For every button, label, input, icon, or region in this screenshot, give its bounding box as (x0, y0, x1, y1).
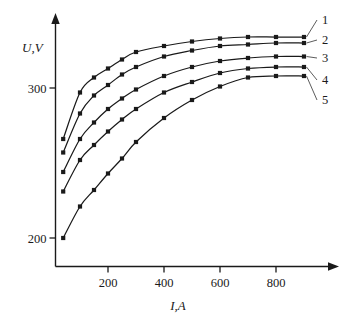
data-point-marker (190, 39, 194, 43)
data-point-marker (61, 189, 65, 193)
x-tick-label: 200 (99, 276, 118, 290)
data-point-marker (120, 57, 124, 61)
data-point-marker (61, 137, 65, 141)
data-point-marker (246, 35, 250, 39)
data-point-marker (246, 66, 250, 70)
data-point-marker (274, 65, 278, 69)
curve-label-5: 5 (322, 93, 328, 107)
leader-line-2 (307, 40, 318, 43)
data-point-marker (106, 66, 110, 70)
data-point-marker (302, 41, 306, 45)
data-point-marker (61, 236, 65, 240)
curve-label-3: 3 (322, 51, 328, 65)
data-point-marker (218, 44, 222, 48)
data-point-marker (246, 75, 250, 79)
curve-2 (63, 43, 304, 153)
data-point-marker (302, 54, 306, 58)
data-point-marker (246, 56, 250, 60)
data-point-marker (120, 156, 124, 160)
axes-layer (50, 13, 340, 273)
data-point-marker (218, 84, 222, 88)
data-point-marker (302, 65, 306, 69)
data-point-marker (190, 65, 194, 69)
data-point-marker (134, 107, 138, 111)
curve-5 (63, 76, 304, 238)
y-tick-label: 200 (28, 232, 47, 246)
curves-layer (63, 37, 304, 238)
data-point-marker (190, 48, 194, 52)
curve-label-4: 4 (322, 73, 329, 87)
data-point-marker (162, 90, 166, 94)
markers-layer (61, 35, 306, 240)
data-point-marker (218, 71, 222, 75)
data-point-marker (162, 44, 166, 48)
data-point-marker (92, 120, 96, 124)
data-point-marker (78, 111, 82, 115)
y-axis-label: U,V (22, 40, 45, 55)
chart-canvas: 200300200400600800 12345 U,V I,A (0, 0, 351, 332)
data-point-marker (134, 140, 138, 144)
data-point-marker (92, 143, 96, 147)
data-point-marker (134, 50, 138, 54)
data-point-marker (78, 204, 82, 208)
data-point-marker (190, 98, 194, 102)
data-point-marker (274, 41, 278, 45)
data-point-marker (61, 150, 65, 154)
data-point-marker (134, 87, 138, 91)
leader-line-3 (307, 57, 318, 59)
data-point-marker (78, 158, 82, 162)
data-point-marker (106, 107, 110, 111)
data-point-marker (162, 74, 166, 78)
x-tick-label: 400 (155, 276, 174, 290)
curve-4 (63, 67, 304, 192)
data-point-marker (92, 75, 96, 79)
data-point-marker (274, 54, 278, 58)
data-point-marker (106, 83, 110, 87)
data-point-marker (162, 54, 166, 58)
data-point-marker (120, 96, 124, 100)
data-point-marker (274, 74, 278, 78)
data-point-marker (78, 90, 82, 94)
figure-root: 200300200400600800 12345 U,V I,A (0, 0, 351, 332)
data-point-marker (218, 59, 222, 63)
leader-line-5 (307, 76, 318, 100)
data-point-marker (78, 137, 82, 141)
y-axis-arrow (51, 13, 59, 24)
x-tick-label: 600 (211, 276, 230, 290)
leader-lines-layer (307, 20, 318, 100)
data-point-marker (120, 72, 124, 76)
data-point-marker (246, 42, 250, 46)
leader-line-4 (307, 67, 318, 80)
data-point-marker (218, 36, 222, 40)
data-point-marker (92, 93, 96, 97)
curve-label-2: 2 (322, 33, 328, 47)
data-point-marker (190, 80, 194, 84)
data-point-marker (162, 116, 166, 120)
data-point-marker (106, 171, 110, 175)
curve-label-1: 1 (322, 13, 328, 27)
data-point-marker (92, 188, 96, 192)
data-point-marker (120, 117, 124, 121)
x-tick-label: 800 (267, 276, 286, 290)
data-point-marker (106, 129, 110, 133)
x-axis-arrow (328, 262, 339, 270)
x-axis-label: I,A (169, 298, 186, 313)
curve-labels-layer: 12345 (322, 13, 329, 107)
data-point-marker (274, 35, 278, 39)
data-point-marker (302, 74, 306, 78)
y-tick-label: 300 (28, 82, 47, 96)
leader-line-1 (307, 20, 318, 37)
data-point-marker (61, 170, 65, 174)
data-point-marker (134, 65, 138, 69)
data-point-marker (302, 35, 306, 39)
